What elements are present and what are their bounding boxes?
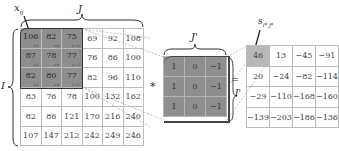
matrix-cell: −82 (292, 66, 315, 87)
output-element-label: si* j* (258, 16, 273, 28)
matrix-cell: −1 (206, 77, 227, 97)
matrix-cell: 96 (103, 68, 124, 88)
matrix-row: 82 86 121 170 216 240 (21, 107, 144, 127)
cell-value: 106 (23, 32, 38, 41)
kernel-width-label: J' (191, 31, 198, 42)
matrix-cell: −91 (315, 46, 338, 67)
matrix-cell: 87×1 (21, 48, 42, 68)
weight-annotation: ×0 (54, 63, 59, 67)
output-matrix: 46 13 −45 −91 20 −24 −82 −114 −29 −110 −… (246, 45, 339, 128)
matrix-cell: 162 (123, 87, 144, 107)
matrix-cell: 1 (164, 97, 185, 117)
matrix-cell: 216 (103, 107, 124, 127)
weight-annotation: ×1 (33, 63, 38, 67)
matrix-cell: 242 (82, 126, 103, 146)
matrix-cell: 20 (247, 66, 270, 87)
matrix-row: 107 147 212 242 249 246 (21, 126, 144, 146)
weight-annotation: ×−1 (71, 83, 79, 87)
matrix-cell: −24 (269, 66, 292, 87)
matrix-cell: −136 (315, 107, 338, 128)
matrix-cell: 108 (123, 29, 144, 49)
equals-operator: = (231, 74, 239, 85)
matrix-row: 82×1 80×0 77×−1 82 96 110 (21, 68, 144, 88)
matrix-cell: −186 (292, 107, 315, 128)
matrix-cell: 77×−1 (62, 68, 83, 88)
input-width-label: J (78, 3, 82, 14)
matrix-cell: 132 (103, 87, 124, 107)
cell-value: 87 (26, 51, 36, 60)
matrix-cell: 100 (82, 87, 103, 107)
matrix-cell: 0 (185, 97, 206, 117)
input-matrix: 106×1 82×0 75×−1 69 92 108 87×1 78×0 77×… (20, 28, 144, 146)
matrix-row: 1 0 −1 (164, 97, 227, 117)
weight-annotation: ×−1 (71, 44, 79, 48)
input-element-label: xij (14, 2, 23, 15)
matrix-cell: 107 (21, 126, 42, 146)
matrix-cell: −168 (292, 87, 315, 108)
matrix-cell: 82×0 (41, 29, 62, 49)
matrix-cell: 246 (123, 126, 144, 146)
kernel-width-brace (164, 44, 226, 55)
matrix-cell: 170 (82, 107, 103, 127)
matrix-cell: 147 (41, 126, 62, 146)
cell-value: 77 (67, 51, 77, 60)
weight-annotation: ×−1 (71, 63, 79, 67)
cell-value: 80 (46, 71, 56, 80)
matrix-cell: 78 (62, 87, 83, 107)
matrix-cell: 75×−1 (62, 29, 83, 49)
matrix-cell: −1 (206, 57, 227, 77)
matrix-cell: 0 (185, 57, 206, 77)
matrix-cell: −203 (269, 107, 292, 128)
matrix-cell: 100 (123, 48, 144, 68)
matrix-cell: 80×0 (41, 68, 62, 88)
weight-annotation: ×1 (33, 83, 38, 87)
matrix-cell: 0 (185, 77, 206, 97)
matrix-row: 83 76 78 100 132 162 (21, 87, 144, 107)
matrix-row: 20 −24 −82 −114 (247, 66, 339, 87)
matrix-cell: 82 (21, 107, 42, 127)
matrix-row: 1 0 −1 (164, 57, 227, 77)
matrix-cell: 249 (103, 126, 124, 146)
weight-annotation: ×1 (33, 44, 38, 48)
matrix-row: −139 −203 −186 −136 (247, 107, 339, 128)
convolve-operator: * (150, 80, 156, 93)
kernel-height-label: I' (235, 88, 241, 98)
cell-value: 77 (67, 71, 77, 80)
matrix-row: 87×1 78×0 77×−1 76 86 100 (21, 48, 144, 68)
matrix-cell: 76 (41, 87, 62, 107)
cell-value: 82 (46, 32, 56, 41)
cell-value: 75 (67, 32, 77, 41)
matrix-cell: 76 (82, 48, 103, 68)
matrix-cell: 92 (103, 29, 124, 49)
matrix-cell: 86 (103, 48, 124, 68)
matrix-cell: 82×1 (21, 68, 42, 88)
matrix-cell: 110 (123, 68, 144, 88)
matrix-row: 1 0 −1 (164, 77, 227, 97)
matrix-cell: 83 (21, 87, 42, 107)
matrix-cell: −45 (292, 46, 315, 67)
matrix-cell: −139 (247, 107, 270, 128)
cell-value: 82 (26, 71, 36, 80)
matrix-row: 46 13 −45 −91 (247, 46, 339, 67)
output-element-subscript: i* j* (263, 22, 274, 28)
matrix-cell: 78×0 (41, 48, 62, 68)
matrix-row: 106×1 82×0 75×−1 69 92 108 (21, 29, 144, 49)
matrix-cell: 46 (247, 46, 270, 67)
matrix-cell: −114 (315, 66, 338, 87)
weight-annotation: ×0 (54, 83, 59, 87)
kernel-matrix: 1 0 −1 1 0 −1 1 0 −1 (163, 56, 227, 117)
input-element-subscript: ij (20, 8, 24, 15)
matrix-cell: 1 (164, 77, 185, 97)
matrix-cell: 212 (62, 126, 83, 146)
weight-annotation: ×0 (54, 44, 59, 48)
input-height-brace (8, 29, 18, 146)
matrix-cell: 82 (82, 68, 103, 88)
matrix-cell: −110 (269, 87, 292, 108)
input-width-brace (21, 14, 143, 27)
matrix-cell: −1 (206, 97, 227, 117)
matrix-cell: 69 (82, 29, 103, 49)
matrix-cell: 86 (41, 107, 62, 127)
matrix-cell: 240 (123, 107, 144, 127)
matrix-cell: −160 (315, 87, 338, 108)
matrix-row: −29 −110 −168 −160 (247, 87, 339, 108)
